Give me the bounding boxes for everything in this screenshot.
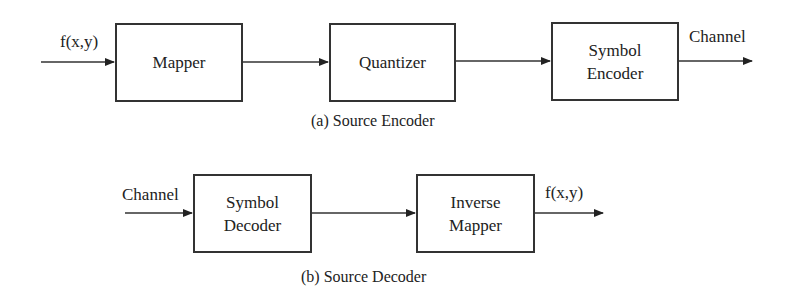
- mapper-label: Mapper: [153, 51, 206, 74]
- decoder-caption: (b) Source Decoder: [301, 268, 426, 286]
- symbol-encoder-label-line1: Symbol: [589, 39, 642, 62]
- inverse-mapper-block: Inverse Mapper: [416, 174, 535, 253]
- encoder-input-label: f(x,y): [60, 32, 98, 52]
- decoder-output-label: f(x,y): [545, 183, 583, 203]
- symbol-decoder-label-line1: Symbol: [226, 191, 279, 214]
- decoder-input-label: Channel: [122, 185, 179, 205]
- inverse-mapper-label-line1: Inverse: [450, 191, 500, 214]
- quantizer-block: Quantizer: [329, 23, 456, 102]
- encoder-caption: (a) Source Encoder: [311, 112, 435, 130]
- symbol-decoder-block: Symbol Decoder: [193, 174, 312, 253]
- inverse-mapper-label-line2: Mapper: [449, 214, 502, 237]
- symbol-encoder-label-line2: Encoder: [587, 62, 644, 85]
- mapper-block: Mapper: [115, 23, 243, 102]
- quantizer-label: Quantizer: [359, 51, 426, 74]
- encoder-output-label: Channel: [689, 27, 746, 47]
- symbol-encoder-block: Symbol Encoder: [551, 22, 679, 101]
- symbol-decoder-label-line2: Decoder: [224, 214, 282, 237]
